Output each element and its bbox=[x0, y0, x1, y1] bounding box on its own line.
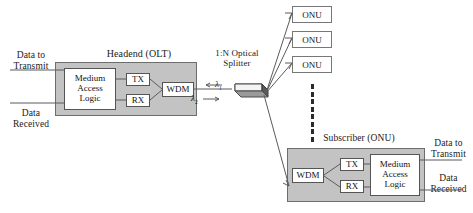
splitter-bottom-edge bbox=[235, 91, 268, 97]
splitter-body-face bbox=[235, 84, 262, 91]
line-subscriber-wdm-to-tx bbox=[324, 164, 340, 175]
line-headend-tx-to-wdm bbox=[150, 79, 162, 89]
line-splitter-to-onu-2 bbox=[266, 38, 292, 93]
line-splitter-to-onu-1 bbox=[266, 13, 292, 93]
optical-splitter-body bbox=[235, 84, 268, 97]
arrowhead-onu-2 bbox=[285, 38, 292, 44]
line-splitter-to-onu-3 bbox=[266, 63, 292, 93]
line-splitter-to-subscriber bbox=[264, 95, 289, 186]
connection-lines bbox=[0, 0, 473, 213]
diagram-canvas: Headend (OLT) Medium Access Logic TX RX … bbox=[0, 0, 473, 213]
line-subscriber-wdm-to-rx bbox=[324, 176, 340, 187]
arrowhead-onu-1 bbox=[285, 13, 292, 19]
line-headend-rx-to-wdm bbox=[150, 90, 162, 100]
